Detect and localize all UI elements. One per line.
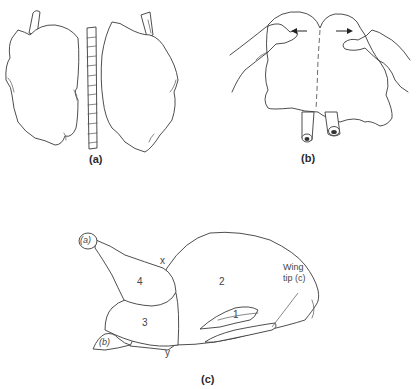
marker-b: (b) xyxy=(99,338,110,347)
marker-y: y xyxy=(165,348,170,358)
wing-tip-callout-line1: Wing xyxy=(283,262,306,273)
region-2-label: 2 xyxy=(219,277,225,287)
panel-c-drawing xyxy=(0,0,416,389)
wing-tip-callout-line2: tip (c) xyxy=(283,273,306,284)
region-3-label: 3 xyxy=(142,318,148,328)
marker-a: (a) xyxy=(80,236,91,245)
drumstick-region-4 xyxy=(95,240,176,306)
region-1-label: 1 xyxy=(233,310,239,320)
panel-c-label: (c) xyxy=(201,374,214,385)
figure-canvas: (a) (b) xyxy=(0,0,416,389)
wing-tip-callout: Wing tip (c) xyxy=(283,262,306,284)
marker-x: x xyxy=(160,256,165,266)
region-4-label: 4 xyxy=(137,277,143,287)
